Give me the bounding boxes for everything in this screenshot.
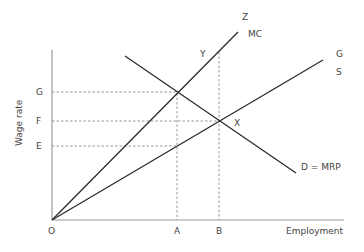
point-x-label: X <box>234 118 240 128</box>
supply-curve <box>52 60 323 220</box>
monopsony-diagram: G F E O A B Employment Wage rate Z MC G … <box>0 0 364 252</box>
z-label: Z <box>242 12 248 22</box>
point-y-label: Y <box>199 49 206 59</box>
y-tick-g: G <box>36 87 43 97</box>
origin-label: O <box>48 226 55 236</box>
demand-mrp-curve <box>125 56 296 173</box>
y-axis-title: Wage rate <box>14 99 24 146</box>
s-label: S <box>336 67 342 77</box>
y-tick-e: E <box>36 141 42 151</box>
x-tick-b: B <box>216 226 222 236</box>
d-mrp-label: D = MRP <box>301 162 341 172</box>
g-curve-label: G <box>336 49 343 59</box>
mc-label: MC <box>248 29 262 39</box>
y-tick-f: F <box>36 116 41 126</box>
x-axis-title: Employment <box>286 226 344 236</box>
x-tick-a: A <box>174 226 181 236</box>
